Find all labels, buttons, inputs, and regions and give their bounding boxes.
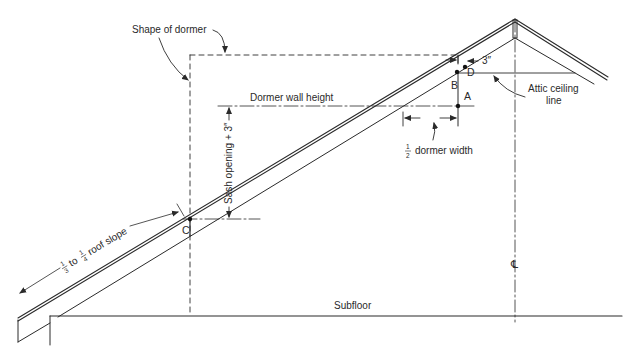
point-a-label: A — [464, 90, 471, 102]
roof-slope-label: 1 3 to 1 4 roof slope — [58, 223, 130, 275]
point-b-dot — [455, 70, 459, 74]
three-inch-label: 3″ — [482, 55, 492, 66]
svg-text:1: 1 — [406, 143, 410, 150]
sash-opening-label: Sash opening + 3″ — [223, 122, 234, 204]
point-c-label: C — [182, 224, 190, 236]
shape-of-dormer-label: Shape of dormer — [132, 24, 207, 35]
shape-of-dormer-leader-left — [159, 38, 188, 80]
svg-text:2: 2 — [406, 152, 410, 159]
svg-text:roof slope: roof slope — [86, 225, 130, 257]
attic-ceiling-label-line2: line — [546, 95, 562, 106]
svg-text:to: to — [67, 255, 80, 269]
point-a-dot — [456, 104, 460, 108]
point-b-label: B — [451, 79, 458, 91]
attic-ceiling-leader — [494, 76, 525, 97]
shape-of-dormer-leader-top — [213, 30, 225, 52]
point-d-label: D — [467, 66, 475, 78]
svg-text:4: 4 — [82, 255, 89, 263]
left-roof-surface — [18, 19, 515, 321]
dormer-wall-height-label: Dormer wall height — [250, 92, 334, 103]
diagram-canvas: Shape of dormer Dormer wall height Sash … — [0, 0, 635, 357]
right-roof-surface — [515, 19, 608, 84]
point-c-dot — [188, 217, 192, 221]
eave-fascia — [18, 320, 50, 342]
dormer-diagram: Shape of dormer Dormer wall height Sash … — [0, 0, 635, 357]
half-dormer-width-label: 1 2 dormer width — [405, 143, 473, 159]
half-dormer-width-dimension — [403, 112, 456, 140]
attic-ceiling-label-line1: Attic ceiling — [528, 83, 579, 94]
centerline-symbol: ℄ — [510, 258, 518, 270]
subfloor-label: Subfloor — [334, 300, 372, 311]
svg-text:3: 3 — [63, 266, 70, 274]
svg-text:dormer width: dormer width — [415, 145, 473, 156]
